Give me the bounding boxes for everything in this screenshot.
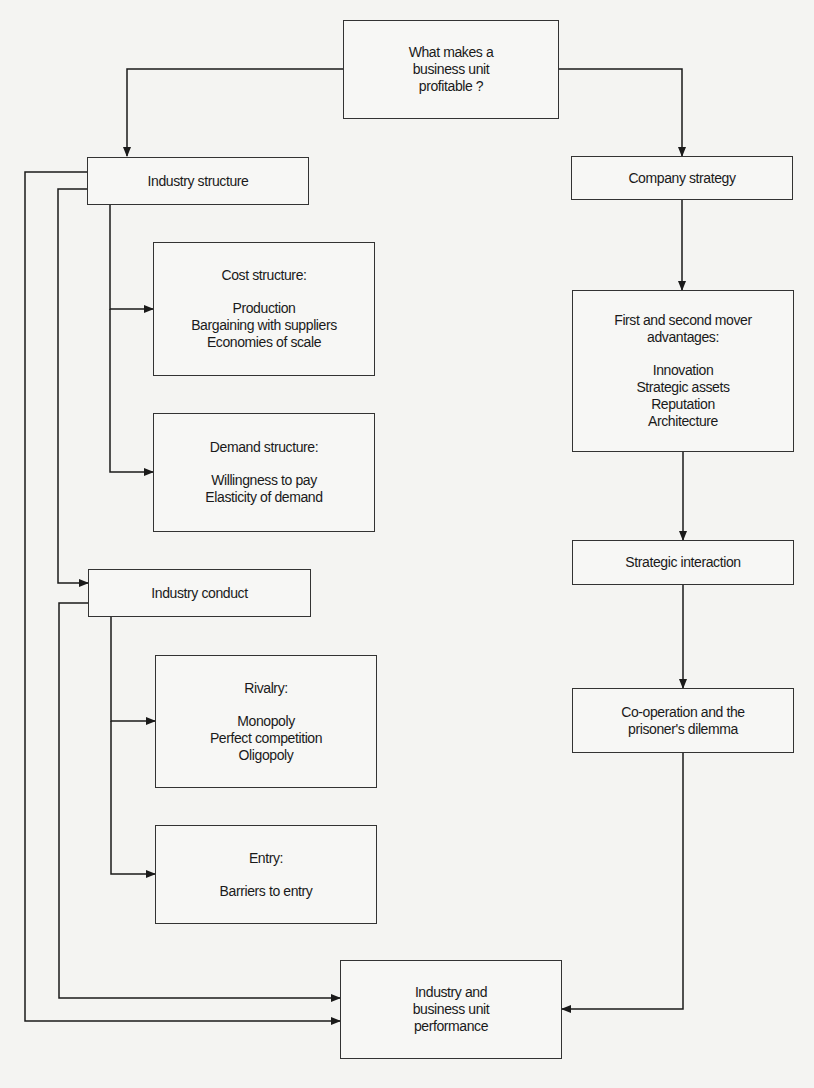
strategic-interaction-box: Strategic interaction [572, 540, 794, 585]
industry-conduct-box: Industry conduct [88, 569, 311, 617]
rivalry-item: Perfect competition [210, 730, 322, 747]
industry-structure-title: Industry structure [148, 173, 249, 190]
performance-line-3: performance [414, 1018, 488, 1035]
company-strategy-title: Company strategy [628, 170, 735, 187]
strategic-interaction-title: Strategic interaction [625, 554, 740, 571]
demand-item: Elasticity of demand [205, 489, 322, 506]
mover-item: Reputation [651, 396, 715, 413]
entry-title: Entry: [249, 850, 283, 867]
rivalry-box: Rivalry: Monopoly Perfect competition Ol… [155, 655, 377, 788]
demand-item: Willingness to pay [211, 472, 317, 489]
rivalry-title: Rivalry: [244, 680, 287, 697]
demand-structure-box: Demand structure: Willingness to pay Ela… [153, 413, 375, 532]
rivalry-item: Oligopoly [239, 747, 294, 764]
company-strategy-box: Company strategy [571, 156, 793, 200]
cost-item: Production [233, 300, 296, 317]
industry-conduct-title: Industry conduct [151, 585, 247, 602]
entry-box: Entry: Barriers to entry [155, 825, 377, 924]
mover-item: Innovation [653, 362, 714, 379]
root-line-2: business unit [413, 61, 490, 78]
mover-item: Strategic assets [636, 379, 729, 396]
rivalry-item: Monopoly [237, 713, 295, 730]
mover-title-line-1: First and second mover [614, 312, 751, 329]
root-question-box: What makes a business unit profitable ? [343, 20, 559, 119]
cooperation-box: Co-operation and the prisoner's dilemma [572, 688, 794, 753]
performance-box: Industry and business unit performance [340, 960, 562, 1059]
cost-item: Bargaining with suppliers [191, 317, 337, 334]
mover-title-line-2: advantages: [647, 329, 719, 346]
cooperation-line-2: prisoner's dilemma [628, 721, 738, 738]
cooperation-line-1: Co-operation and the [621, 704, 745, 721]
root-line-3: profitable ? [419, 78, 483, 95]
cost-item: Economies of scale [207, 334, 321, 351]
industry-structure-box: Industry structure [87, 157, 309, 205]
demand-structure-title: Demand structure: [210, 439, 318, 456]
entry-item: Barriers to entry [220, 883, 313, 900]
cost-structure-title: Cost structure: [221, 267, 306, 284]
cost-structure-box: Cost structure: Production Bargaining wi… [153, 242, 375, 376]
performance-line-1: Industry and [415, 984, 487, 1001]
performance-line-2: business unit [413, 1001, 490, 1018]
mover-item: Architecture [648, 413, 718, 430]
root-line-1: What makes a [409, 44, 494, 61]
mover-advantages-box: First and second mover advantages: Innov… [572, 290, 794, 452]
